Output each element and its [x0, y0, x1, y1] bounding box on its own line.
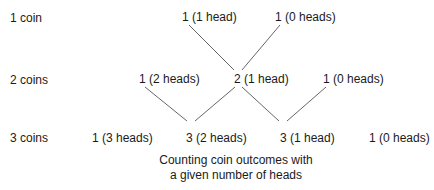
edge-r1n2-r2n2	[242, 25, 280, 70]
caption-line-1: Counting coin outcomes with	[150, 153, 322, 168]
node-3coins-3heads: 1 (3 heads)	[92, 131, 153, 145]
node-3coins-2heads: 3 (2 heads)	[186, 131, 247, 145]
caption-line-2: a given number of heads	[150, 168, 322, 183]
edge-r2n2-r3n2	[195, 87, 235, 121]
node-2coins-1head: 2 (1 head)	[234, 72, 289, 86]
node-1coin-0heads: 1 (0 heads)	[275, 10, 336, 24]
node-3coins-1head: 3 (1 head)	[280, 131, 335, 145]
diagram-caption: Counting coin outcomes with a given numb…	[150, 153, 322, 182]
node-2coins-0heads: 1 (0 heads)	[323, 72, 384, 86]
edge-r2n3-r3n3	[287, 87, 326, 121]
edge-r2n2-r3n3	[242, 87, 279, 121]
row-label-1-coin: 1 coin	[10, 11, 42, 25]
node-1coin-1head: 1 (1 head)	[182, 10, 237, 24]
node-2coins-2heads: 1 (2 heads)	[139, 72, 200, 86]
row-label-2-coins: 2 coins	[10, 73, 48, 87]
edge-r2n1-r3n2	[145, 87, 187, 121]
node-3coins-0heads: 1 (0 heads)	[369, 131, 430, 145]
edge-r1n1-r2n2	[189, 25, 234, 70]
row-label-3-coins: 3 coins	[10, 131, 48, 145]
